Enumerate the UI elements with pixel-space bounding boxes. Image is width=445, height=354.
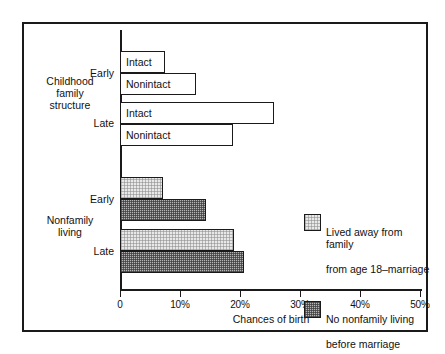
- x-tick-0: [120, 291, 121, 297]
- bar-nonfamily-early-no-nonfamily: [120, 199, 206, 221]
- bar-nonfamily-late-lived-away: [120, 229, 234, 251]
- group-label-childhood-family-structure: Childhood family structure: [28, 75, 112, 111]
- bar-childhood-early-nonintact: Nonintact: [120, 73, 196, 95]
- group2-label-line-1: Nonfamily: [28, 214, 112, 226]
- chart-frame: 0 10% 20% 30% 40% 50% Chances of birth C…: [22, 22, 428, 332]
- bar-label-intact-late: Intact: [126, 107, 152, 119]
- group-label-line-3: structure: [28, 99, 112, 111]
- bar-label-nonintact-early: Nonintact: [126, 78, 170, 90]
- legend-label-no-nonfamily-line-1: No nonfamily living: [326, 313, 414, 326]
- subgroup-label-late-childhood: Late: [54, 117, 114, 129]
- legend-item-lived-away: Lived away from family from age 18–marri…: [304, 213, 430, 288]
- x-tick-label-10: 10%: [160, 299, 200, 310]
- legend-item-no-nonfamily: No nonfamily living before marriage: [304, 300, 430, 354]
- x-tick-label-0: 0: [100, 299, 140, 310]
- legend-label-lived-away-line-1: Lived away from family: [326, 226, 430, 251]
- group-label-line-2: family: [28, 87, 112, 99]
- bar-nonfamily-early-lived-away: [120, 177, 163, 199]
- bar-childhood-late-nonintact: Nonintact: [120, 124, 233, 146]
- group2-label-line-2: living: [28, 226, 112, 238]
- subgroup-label-early-nonfamily: Early: [54, 193, 114, 205]
- bar-label-nonintact-late: Nonintact: [126, 129, 170, 141]
- legend-swatch-dark-icon: [304, 301, 321, 318]
- x-tick-20: [240, 291, 241, 297]
- bar-childhood-early-intact: Intact: [120, 51, 165, 73]
- legend-label-no-nonfamily-line-2: before marriage: [326, 338, 414, 351]
- group-label-nonfamily-living: Nonfamily living: [28, 214, 112, 238]
- bar-childhood-late-intact: Intact: [120, 102, 274, 124]
- legend-label-no-nonfamily: No nonfamily living before marriage: [326, 300, 414, 354]
- subgroup-label-late-nonfamily: Late: [54, 245, 114, 257]
- legend-label-lived-away-line-2: from age 18–marriage: [326, 263, 430, 276]
- x-tick-10: [180, 291, 181, 297]
- subgroup-label-early-childhood: Early: [54, 67, 114, 79]
- bar-label-intact-early: Intact: [126, 56, 152, 68]
- x-tick-label-20: 20%: [220, 299, 260, 310]
- legend-swatch-light-icon: [304, 214, 321, 231]
- chart-legend: Lived away from family from age 18–marri…: [304, 213, 430, 354]
- x-tick-30: [300, 291, 301, 297]
- plot-area: 0 10% 20% 30% 40% 50% Chances of birth C…: [24, 24, 430, 334]
- legend-label-lived-away: Lived away from family from age 18–marri…: [326, 213, 430, 288]
- bar-nonfamily-late-no-nonfamily: [120, 251, 244, 273]
